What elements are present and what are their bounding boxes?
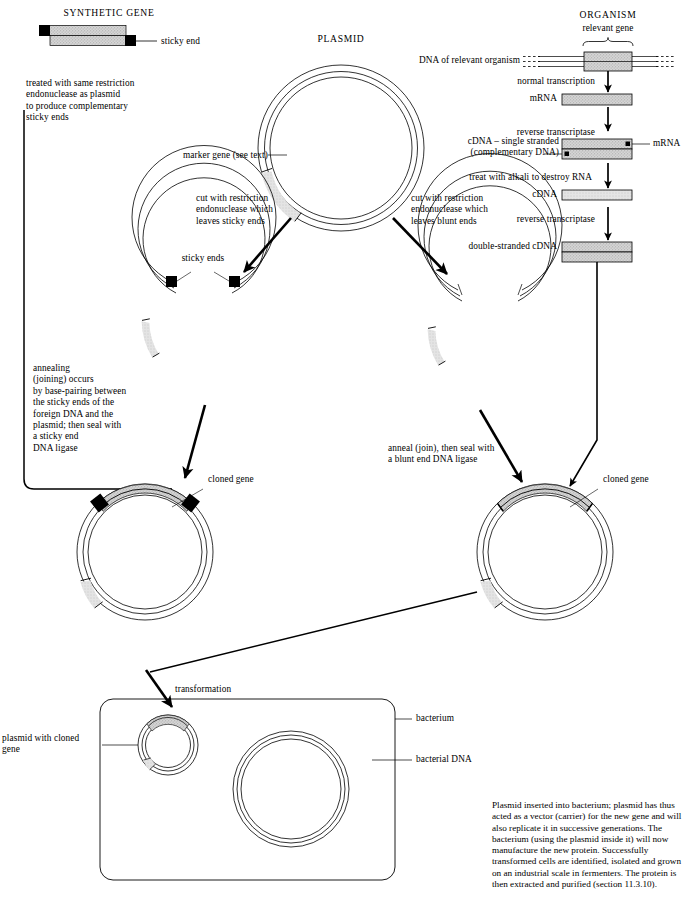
organism-heading: ORGANISM [558,9,658,20]
marker-gene-label: marker gene (see text) [158,150,268,161]
organism-dna-figure [523,38,675,72]
summary-caption: Plasmid inserted into bacterium; plasmid… [492,800,690,890]
bacterium-figure [100,699,412,880]
cdna-single-stranded-label: cDNA – single stranded (complementary DN… [437,136,559,159]
blunt-end-plasmid-figure [418,154,562,366]
bacterial-dna-label: bacterial DNA [416,754,472,765]
plasmid-with-cloned-gene-label: plasmid with cloned gene [2,733,102,756]
reverse-transcriptase-label-2: reverse transcriptase [470,214,595,225]
double-stranded-cdna-bar [562,242,632,262]
normal-transcription-label: normal transcription [470,76,595,87]
cdna-mrna-hybrid-bars [544,139,650,159]
sticky-ends-label: sticky ends [163,253,243,264]
gene-cloning-diagram: SYNTHETIC GENE sticky end treated with s… [0,0,691,899]
recombinant-plasmid-right [477,484,613,620]
cdna-to-plasmid-flow-line [570,262,597,486]
bacterium-label: bacterium [416,713,454,724]
right-plasmid-to-bacterium-line [150,592,477,672]
sticky-end-label: sticky end [161,36,200,47]
annealing-arrow-left [185,405,205,478]
synthetic-gene-figure [39,25,157,46]
transformation-arrow [146,670,172,707]
anneal-blunt-label: anneal (join), then seal with a blunt en… [388,443,558,466]
treat-with-alkali-label: treat with alkali to destroy RNA [418,172,592,183]
mrna-label: mRNA [500,93,557,104]
relevant-gene-label: relevant gene [558,23,658,34]
cloned-gene-label-left: cloned gene [208,474,254,485]
synthetic-gene-heading: SYNTHETIC GENE [44,7,174,18]
treated-with-restriction-label: treated with same restriction endonuclea… [26,78,186,124]
sticky-end-plasmid-figure [132,146,276,358]
mrna-bar [562,94,632,105]
mrna-side-label: mRNA [653,138,680,149]
recombinant-plasmid-left [77,484,213,620]
plasmid-heading: PLASMID [291,33,391,44]
dna-of-relevant-organism-label: DNA of relevant organism [388,55,520,66]
cdna-label: cDNA [500,189,557,200]
cut-sticky-ends-label: cut with restriction endonuclease which … [196,193,326,227]
annealing-label: annealing (joining) occurs by base-pairi… [33,363,188,454]
cloned-gene-label-right: cloned gene [603,474,649,485]
transformation-label: transformation [175,684,231,695]
cdna-bar [562,190,632,200]
double-stranded-cdna-label: double-stranded cDNA [437,241,557,252]
